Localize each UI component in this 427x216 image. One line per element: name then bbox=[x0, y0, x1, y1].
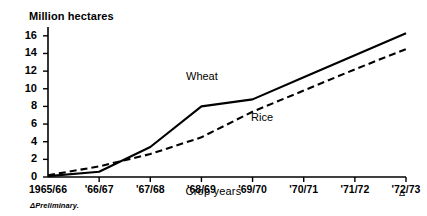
y-tick-label: 6 bbox=[15, 118, 37, 129]
x-axis-title: Crop years bbox=[0, 185, 427, 197]
data-series-group bbox=[48, 33, 406, 176]
series-label-wheat: Wheat bbox=[186, 70, 218, 82]
series-line-wheat bbox=[48, 33, 406, 176]
series-line-rice bbox=[48, 49, 406, 175]
y-tick-label: 10 bbox=[15, 83, 37, 94]
y-tick-label: 12 bbox=[15, 65, 37, 76]
series-label-rice: Rice bbox=[251, 111, 273, 123]
preliminary-marker: Δ bbox=[399, 188, 405, 198]
chart-figure: Million hectares 0246810121416 1965/66'6… bbox=[0, 0, 427, 216]
y-tick-label: 16 bbox=[15, 30, 37, 41]
footnote: ΔPreliminary. bbox=[30, 201, 79, 210]
y-tick-label: 2 bbox=[15, 153, 37, 164]
y-tick-label: 4 bbox=[15, 136, 37, 147]
y-tick-label: 8 bbox=[15, 100, 37, 111]
y-tick-label: 14 bbox=[15, 47, 37, 58]
y-tick-label: 0 bbox=[15, 171, 37, 182]
